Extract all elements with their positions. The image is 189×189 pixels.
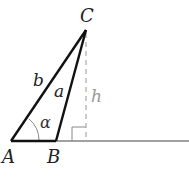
label-C: C xyxy=(80,5,94,26)
label-b: b xyxy=(33,70,44,90)
triangle-diagram: C A B b a h α xyxy=(0,0,189,189)
label-h: h xyxy=(91,86,102,106)
angle-alpha-arc xyxy=(29,119,39,141)
label-alpha: α xyxy=(40,113,51,132)
right-angle-marker xyxy=(72,127,86,141)
label-B: B xyxy=(46,146,60,167)
label-A: A xyxy=(0,146,15,167)
label-a: a xyxy=(54,81,64,101)
